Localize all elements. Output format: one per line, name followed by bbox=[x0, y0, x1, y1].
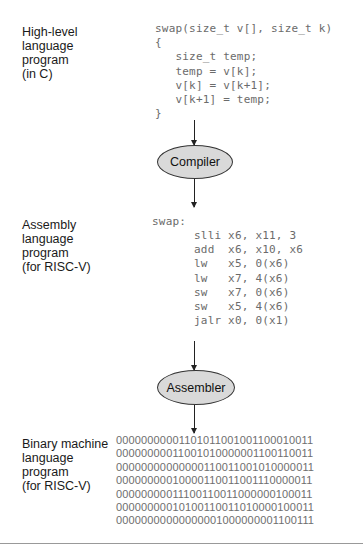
assembler-label: Assembler bbox=[166, 381, 225, 395]
high-level-label: High-level language program (in C) bbox=[22, 25, 78, 81]
arrow-down-icon bbox=[194, 120, 195, 145]
assembly-header: swap: bbox=[152, 215, 186, 229]
compiler-label: Compiler bbox=[170, 155, 220, 169]
assembly-code: slli x6, x11, 3 add x6, x10, x6 lw x5, 0… bbox=[194, 229, 303, 328]
assembly-label: Assembly language program (for RISC-V) bbox=[22, 218, 91, 274]
arrow-down-icon bbox=[194, 341, 195, 370]
compiler-node: Compiler bbox=[157, 145, 233, 179]
assembler-node: Assembler bbox=[157, 370, 235, 405]
arrow-down-icon bbox=[194, 179, 195, 207]
arrow-down-icon bbox=[194, 405, 195, 433]
c-source-code: swap(size_t v[], size_t k) { size_t temp… bbox=[155, 22, 332, 121]
binary-code: 00000000001101011001001100010011 0000000… bbox=[116, 434, 314, 528]
divider bbox=[0, 543, 363, 544]
binary-label: Binary machine language program (for RIS… bbox=[22, 437, 108, 493]
